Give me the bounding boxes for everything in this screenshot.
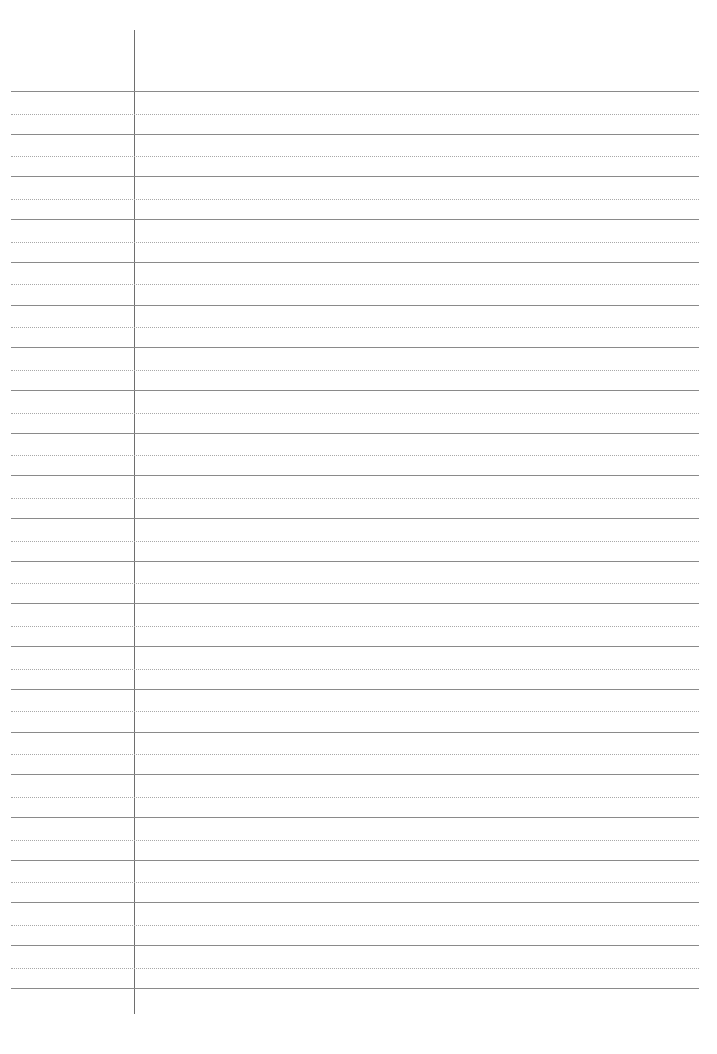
dotted-rule bbox=[11, 669, 699, 670]
dotted-rule bbox=[11, 626, 699, 627]
dotted-rule bbox=[11, 797, 699, 798]
solid-rule bbox=[11, 561, 699, 562]
margin-line bbox=[134, 30, 135, 1014]
solid-rule bbox=[11, 347, 699, 348]
solid-rule bbox=[11, 518, 699, 519]
lined-paper bbox=[0, 0, 717, 1054]
dotted-rule bbox=[11, 882, 699, 883]
solid-rule bbox=[11, 774, 699, 775]
solid-rule bbox=[11, 860, 699, 861]
dotted-rule bbox=[11, 925, 699, 926]
dotted-rule bbox=[11, 840, 699, 841]
solid-rule bbox=[11, 945, 699, 946]
solid-rule bbox=[11, 646, 699, 647]
dotted-rule bbox=[11, 284, 699, 285]
solid-rule bbox=[11, 390, 699, 391]
solid-rule bbox=[11, 262, 699, 263]
dotted-rule bbox=[11, 583, 699, 584]
solid-rule bbox=[11, 902, 699, 903]
dotted-rule bbox=[11, 327, 699, 328]
solid-rule bbox=[11, 988, 699, 989]
solid-rule bbox=[11, 433, 699, 434]
solid-rule bbox=[11, 134, 699, 135]
dotted-rule bbox=[11, 370, 699, 371]
dotted-rule bbox=[11, 156, 699, 157]
solid-rule bbox=[11, 732, 699, 733]
dotted-rule bbox=[11, 114, 699, 115]
solid-rule bbox=[11, 176, 699, 177]
solid-rule bbox=[11, 219, 699, 220]
dotted-rule bbox=[11, 455, 699, 456]
solid-rule bbox=[11, 305, 699, 306]
dotted-rule bbox=[11, 541, 699, 542]
solid-rule bbox=[11, 689, 699, 690]
solid-rule bbox=[11, 475, 699, 476]
dotted-rule bbox=[11, 413, 699, 414]
dotted-rule bbox=[11, 754, 699, 755]
solid-rule bbox=[11, 817, 699, 818]
dotted-rule bbox=[11, 968, 699, 969]
solid-rule bbox=[11, 91, 699, 92]
dotted-rule bbox=[11, 242, 699, 243]
dotted-rule bbox=[11, 199, 699, 200]
dotted-rule bbox=[11, 711, 699, 712]
solid-rule bbox=[11, 603, 699, 604]
dotted-rule bbox=[11, 498, 699, 499]
